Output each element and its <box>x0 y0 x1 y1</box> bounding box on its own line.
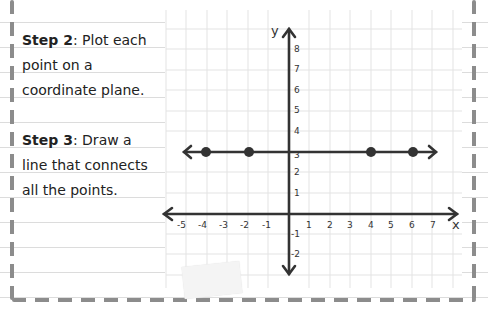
svg-text:7: 7 <box>294 64 300 74</box>
grid-lines <box>166 10 462 288</box>
svg-text:y: y <box>271 23 279 38</box>
svg-text:2: 2 <box>294 167 300 177</box>
svg-text:3: 3 <box>294 150 300 160</box>
svg-text:3: 3 <box>347 220 353 230</box>
tape-strip <box>181 261 242 299</box>
svg-text:x: x <box>452 217 460 232</box>
svg-text:4: 4 <box>368 220 374 230</box>
svg-text:-1: -1 <box>291 229 300 239</box>
svg-text:-2: -2 <box>291 249 300 259</box>
svg-text:1: 1 <box>294 188 300 198</box>
svg-text:-2: -2 <box>240 220 249 230</box>
svg-text:8: 8 <box>294 44 300 54</box>
svg-text:-1: -1 <box>262 220 271 230</box>
svg-text:1: 1 <box>306 220 312 230</box>
svg-text:6: 6 <box>294 85 300 95</box>
svg-text:-5: -5 <box>177 220 186 230</box>
svg-text:-4: -4 <box>198 220 207 230</box>
coordinate-plane: -5-4-3 -2-1 123 4567 876 543 21 -1-2 x y <box>0 0 488 336</box>
svg-text:6: 6 <box>409 220 415 230</box>
svg-text:2: 2 <box>327 220 333 230</box>
svg-text:-3: -3 <box>219 220 228 230</box>
svg-text:5: 5 <box>388 220 394 230</box>
svg-text:7: 7 <box>430 220 436 230</box>
svg-text:4: 4 <box>294 126 300 136</box>
svg-text:5: 5 <box>294 105 300 115</box>
